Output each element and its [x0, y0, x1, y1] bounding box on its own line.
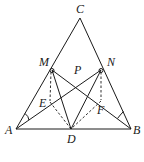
label-n: N	[106, 55, 116, 69]
segment-me-dashed	[50, 72, 51, 101]
segment-ac	[16, 18, 80, 129]
label-a: A	[4, 123, 13, 137]
segment-ed-dashed	[50, 102, 71, 129]
label-c: C	[76, 2, 85, 16]
label-e: E	[38, 96, 47, 110]
label-m: M	[38, 55, 50, 69]
label-p: P	[73, 63, 82, 77]
segment-na	[16, 70, 101, 129]
angle-mark-a	[25, 114, 29, 121]
geometry-figure: C M N P E F A D B	[0, 0, 144, 162]
segment-md	[52, 70, 71, 129]
angle-mark-b	[118, 112, 124, 119]
label-d: D	[66, 132, 76, 146]
segment-nd	[71, 70, 101, 129]
label-f: F	[96, 103, 105, 117]
label-b: B	[133, 123, 141, 137]
